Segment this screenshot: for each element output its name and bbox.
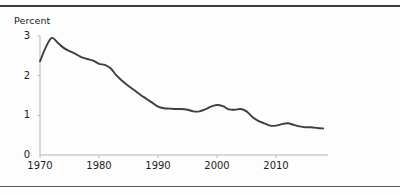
data-series-line [40, 38, 323, 129]
axis-lines [40, 36, 328, 155]
line-plot-area [0, 0, 400, 194]
chart-figure: Percent 0123 19701980199020002010 [0, 0, 400, 194]
